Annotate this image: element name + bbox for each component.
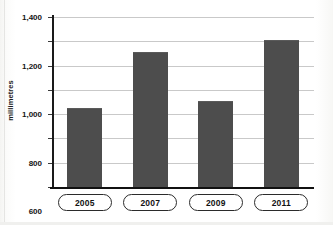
x-axis-categories: 2005200720092011 xyxy=(52,194,314,214)
gridline xyxy=(52,17,314,18)
y-axis-label: millimetres xyxy=(6,65,15,137)
plot-area: 02004006008001,0001,2001,400 xyxy=(52,17,314,187)
y-axis-tick-label: 800 xyxy=(29,158,42,167)
x-axis-category-label: 2005 xyxy=(58,194,112,211)
scan-artifact-bottom-edge xyxy=(0,222,333,225)
bar xyxy=(264,40,299,187)
x-axis-baseline xyxy=(50,187,314,189)
chart-title xyxy=(36,0,320,3)
x-axis-category-label: 2011 xyxy=(254,194,308,211)
bar xyxy=(67,108,102,187)
y-axis-tick-label: 1,400 xyxy=(22,13,42,22)
x-axis-category-label: 2009 xyxy=(189,194,243,211)
y-axis-tick-label: 600 xyxy=(29,207,42,216)
x-axis-category-label: 2007 xyxy=(123,194,177,211)
y-axis-line xyxy=(52,15,54,189)
y-axis-tick-label: 1,000 xyxy=(22,110,42,119)
bar xyxy=(198,101,233,187)
y-axis-tick-label: 1,200 xyxy=(22,61,42,70)
bar xyxy=(133,52,168,187)
